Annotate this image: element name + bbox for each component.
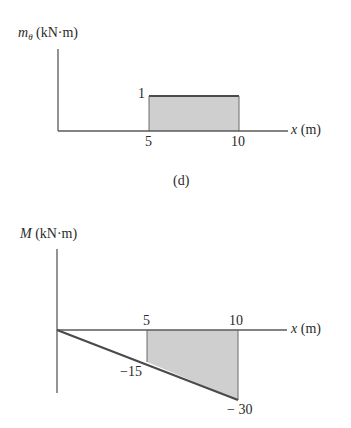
tick-5: 5 — [145, 135, 152, 149]
top-y-axis-label: mθ (kN·m) — [18, 26, 78, 42]
moment-shaded-area — [147, 330, 238, 400]
tick-10: 10 — [231, 135, 245, 149]
tick-10: 10 — [229, 314, 243, 328]
figure-caption: (d) — [173, 174, 189, 188]
torque-diagram — [58, 49, 288, 131]
moment-diagram — [57, 249, 287, 400]
top-x-axis-label: x (m) — [291, 123, 321, 137]
bottom-y-axis-label: M (kN·m) — [20, 227, 77, 241]
distributed-torque-area — [149, 96, 239, 131]
tick-5: 5 — [143, 314, 150, 328]
value-label-minus-15: −15 — [120, 365, 142, 379]
torque-value-label: 1 — [138, 87, 145, 101]
diagram-canvas — [0, 0, 351, 428]
bottom-x-axis-label: x (m) — [291, 322, 321, 336]
value-label-minus-30: − 30 — [227, 403, 252, 417]
